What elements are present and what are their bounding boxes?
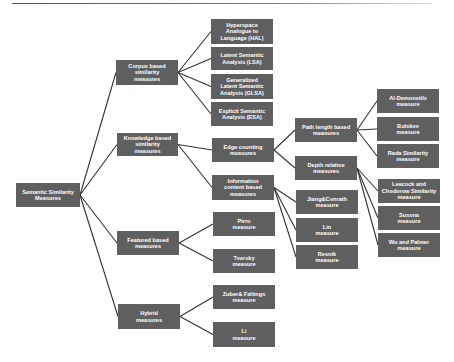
- node-glsa: Generalized Latent Semantic Analysis (GL…: [211, 74, 273, 99]
- node-depth: Depth relative measures: [295, 156, 357, 180]
- node-wupalmer: Wu and Palmer measure: [378, 233, 440, 257]
- node-resnik: Resnik measure: [296, 245, 358, 269]
- edge-featured-pirro: [179, 224, 213, 243]
- edge-corpus-esa: [178, 73, 211, 115]
- node-aldemonstils: Al-Demonstils measure: [377, 89, 439, 113]
- node-lsa: Latent Semantic Analysis (LSA): [211, 47, 273, 70]
- node-rada: Rada Similarity measure: [377, 144, 439, 168]
- edge-featured-tversky: [179, 243, 213, 261]
- edge-info-resnik: [274, 188, 296, 258]
- node-featured: Featured based measures: [117, 231, 179, 255]
- node-corpus: Corpus based similarity measures: [116, 60, 178, 85]
- edge-hybrid-li: [180, 317, 213, 335]
- edge-hybrid-zuber: [180, 297, 213, 317]
- node-path: Path length based measures: [295, 118, 357, 142]
- edge-edge-path: [274, 130, 295, 150]
- edge-knowledge-info: [178, 145, 212, 188]
- node-root: Semantic Similarity Measures: [16, 183, 80, 207]
- edge-root-corpus: [80, 73, 116, 196]
- node-jiang: Jiang&Conrath measure: [296, 190, 358, 214]
- edge-knowledge-edge: [178, 145, 212, 151]
- node-esa: Explicit Semantic Analysis (ESA): [211, 102, 273, 126]
- edge-corpus-hal: [178, 32, 211, 73]
- edge-path-rada: [357, 130, 377, 156]
- edge-root-knowledge: [80, 145, 117, 196]
- edge-edge-depth: [274, 150, 295, 168]
- edge-path-aldemonstils: [357, 101, 377, 130]
- node-hal: Hyperspace Analogue to Language (HAL): [211, 19, 273, 44]
- node-edge: Edge counting measures: [212, 138, 274, 162]
- edge-path-bulskov: [357, 129, 377, 130]
- edge-root-featured: [80, 195, 117, 243]
- node-bulskov: Bulskov measure: [377, 117, 439, 141]
- node-pirro: Pirro measure: [213, 212, 275, 236]
- node-knowledge: Knowledge based similarity measures: [117, 133, 178, 156]
- node-tversky: Tversky measure: [213, 249, 275, 273]
- edge-depth-sussna: [357, 168, 378, 218]
- node-hybrid: Hybrid measures: [118, 304, 180, 329]
- node-info: Information content based measures: [212, 175, 274, 200]
- edge-root-hybrid: [80, 195, 118, 317]
- node-lin: Lin measure: [296, 218, 358, 242]
- node-leacock: Leacock and Chodorow Similarity measure: [378, 179, 440, 203]
- node-zuber: Zuber& Faltings measure: [213, 285, 275, 309]
- node-sussna: Sussna measure: [378, 206, 440, 230]
- node-li: Li measure: [213, 322, 275, 347]
